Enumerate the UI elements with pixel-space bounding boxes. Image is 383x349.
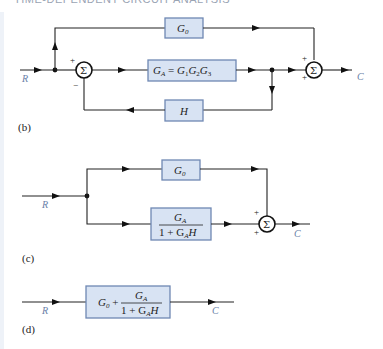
block-g0: G0 — [165, 18, 203, 38]
diagram-label-d: (d) — [22, 323, 35, 336]
input-label-r: R — [41, 199, 48, 210]
input-label-r: R — [21, 73, 28, 84]
svg-text:1 + GAH: 1 + GAH — [159, 226, 197, 240]
output-label-c: C — [357, 71, 364, 82]
svg-text:Σ: Σ — [310, 65, 317, 76]
arrow-icon — [341, 67, 349, 73]
lower-branch-wire — [87, 196, 151, 224]
arrow-icon — [122, 221, 130, 227]
arrow-icon — [122, 166, 130, 172]
arrow-icon — [252, 25, 260, 31]
diagram-label-c: (c) — [22, 252, 35, 265]
arrow-icon — [34, 67, 42, 73]
svg-text:H: H — [179, 105, 189, 117]
svg-text:1 + GAH: 1 + GAH — [121, 304, 159, 318]
arrow-icon — [292, 221, 300, 227]
block-h: H — [165, 100, 203, 121]
arrow-icon — [288, 67, 296, 73]
arrow-icon — [118, 67, 126, 73]
svg-text:Σ: Σ — [263, 219, 270, 230]
arrow-icon — [269, 86, 275, 94]
diagram-b: R G0 Σ + − GA = G1G2G3 — [18, 18, 364, 134]
minus-sign: − — [73, 80, 78, 90]
block-g0: G0 — [162, 160, 200, 180]
output-label-c: C — [212, 305, 219, 316]
diagram-d: R G0 + GA 1 + GAH C (d) — [22, 286, 234, 336]
upper-branch-wire — [87, 169, 162, 196]
output-label-c: C — [294, 228, 301, 239]
summing-junction-2: Σ — [306, 62, 322, 78]
arrow-icon — [224, 221, 232, 227]
arrow-icon — [251, 166, 259, 172]
plus-sign: + — [254, 207, 259, 217]
arrow-icon — [52, 193, 60, 199]
arrow-icon — [126, 107, 134, 113]
plus-sign: + — [302, 53, 307, 63]
plus-sign: + — [302, 72, 307, 82]
plus-sign: + — [254, 227, 259, 237]
input-label-r: R — [41, 305, 48, 316]
svg-text:Σ: Σ — [80, 65, 87, 76]
summing-junction-1: Σ — [76, 62, 92, 78]
summing-junction: Σ — [259, 216, 275, 232]
block-ga: GA = G1G2G3 — [148, 60, 236, 81]
plus-sign: + — [70, 55, 75, 65]
diagram-label-b: (b) — [18, 121, 31, 134]
diagram-c: R G0 GA 1 + GAH Σ + + C (c) — [22, 160, 310, 265]
arrow-icon — [52, 299, 60, 305]
arrow-icon — [52, 42, 58, 50]
arrow-icon — [248, 67, 256, 73]
block-diagrams: R G0 Σ + − GA = G1G2G3 — [0, 0, 383, 349]
block-closed-loop: GA 1 + GAH — [151, 208, 211, 240]
block-equivalent: G0 + GA 1 + GAH — [86, 286, 170, 318]
